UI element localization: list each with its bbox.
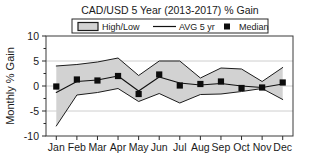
median-marker <box>115 73 121 79</box>
chart-figure: CAD/USD 5 Year (2013-2017) % Gain High/L… <box>0 0 310 164</box>
median-marker <box>280 79 286 85</box>
median-marker <box>156 71 162 77</box>
legend-label-median: Median <box>239 22 269 32</box>
median-marker <box>218 78 224 84</box>
x-tick-label-sep: Sep <box>212 141 231 153</box>
y-tick-label: 10 <box>27 30 39 42</box>
x-tick-label-jan: Jan <box>48 141 65 153</box>
median-marker <box>177 82 183 88</box>
x-tick-label-jul: Jul <box>173 141 186 153</box>
y-axis-title: Monthly % Gain <box>4 47 16 125</box>
median-marker <box>74 76 80 82</box>
x-tick-label-mar: Mar <box>88 141 107 153</box>
median-marker <box>53 83 59 89</box>
chart-container: CAD/USD 5 Year (2013-2017) % Gain High/L… <box>0 0 310 164</box>
x-tick-label-may: May <box>129 141 150 153</box>
median-marker <box>238 85 244 91</box>
x-tick-label-apr: Apr <box>110 141 127 153</box>
x-tick-label-nov: Nov <box>253 141 272 153</box>
y-tick-label: 0 <box>33 80 39 92</box>
y-tick-label: 5 <box>33 55 39 67</box>
legend-swatch-high-low-icon <box>78 23 98 31</box>
median-marker <box>259 84 265 90</box>
x-tick-label-jun: Jun <box>151 141 168 153</box>
chart-legend: High/Low AVG 5 yr Median <box>72 19 269 33</box>
median-marker <box>136 91 142 97</box>
x-tick-label-aug: Aug <box>191 141 210 153</box>
legend-label-avg: AVG 5 yr <box>179 22 215 32</box>
y-tick-label: -5 <box>30 105 39 117</box>
median-marker <box>197 81 203 87</box>
x-tick-label-dec: Dec <box>273 141 292 153</box>
legend-square-median-icon <box>224 24 230 30</box>
legend-label-high-low: High/Low <box>102 22 140 32</box>
median-marker <box>94 77 100 83</box>
chart-title: CAD/USD 5 Year (2013-2017) % Gain <box>81 4 259 16</box>
x-tick-label-oct: Oct <box>233 141 249 153</box>
y-tick-label: -10 <box>24 130 39 142</box>
x-tick-label-feb: Feb <box>68 141 86 153</box>
